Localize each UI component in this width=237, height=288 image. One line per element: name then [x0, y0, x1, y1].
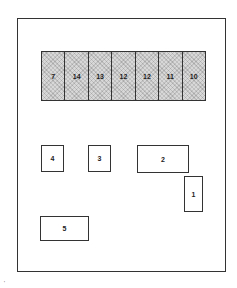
box-label: 2 — [161, 156, 165, 163]
box-label: 4 — [51, 155, 55, 162]
box-label: 1 — [192, 191, 196, 198]
bar-cell: 11 — [159, 52, 182, 100]
box-2: 2 — [137, 145, 189, 173]
top-bar: 7 14 13 12 12 11 10 — [41, 51, 206, 101]
box-3: 3 — [88, 145, 111, 172]
box-5: 5 — [40, 216, 89, 241]
corner-mark: ' — [4, 280, 5, 286]
bar-cell: 12 — [136, 52, 159, 100]
bar-cell: 10 — [183, 52, 205, 100]
box-label: 3 — [98, 155, 102, 162]
bar-cell: 7 — [42, 52, 65, 100]
bar-cell: 14 — [65, 52, 88, 100]
bar-cell: 13 — [89, 52, 112, 100]
box-4: 4 — [41, 145, 64, 172]
box-1: 1 — [184, 176, 203, 212]
box-label: 5 — [63, 225, 67, 232]
bar-cell: 12 — [112, 52, 135, 100]
